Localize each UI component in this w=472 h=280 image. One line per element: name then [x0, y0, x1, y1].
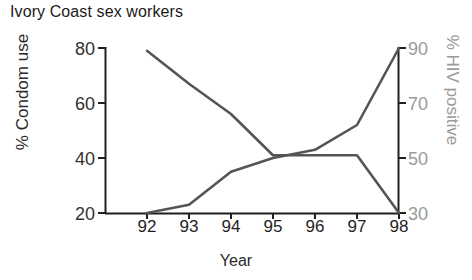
y-axis-right-ticks	[399, 48, 406, 213]
line-series-hiv-positive	[147, 51, 399, 213]
y-axis-left-ticks	[98, 48, 105, 213]
line-series-condom-use	[147, 48, 399, 213]
chart-figure: Ivory Coast sex workers % Condom use % H…	[0, 0, 472, 280]
plot-area	[0, 0, 472, 280]
